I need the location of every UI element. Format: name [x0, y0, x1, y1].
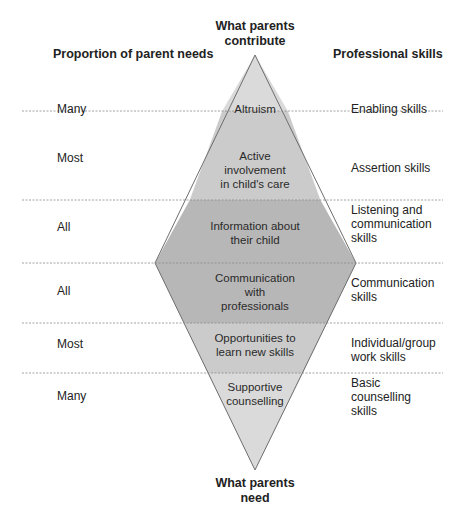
skill-2-line1: Assertion skills: [351, 161, 430, 175]
center-5-line2: learn new skills: [185, 345, 325, 359]
bottom-header: What parents need: [205, 476, 305, 506]
top-header-line2: contribute: [205, 34, 305, 49]
skill-6: Basic counselling skills: [351, 376, 411, 418]
center-2-line2: involvement: [195, 163, 315, 177]
proportion-5: Most: [57, 337, 83, 351]
proportion-4: All: [57, 284, 70, 298]
center-3-line2: their child: [185, 233, 325, 247]
center-label-6: Supportive counselling: [195, 380, 315, 408]
center-6-line2: counselling: [195, 394, 315, 408]
bottom-header-line1: What parents: [205, 476, 305, 491]
skill-1: Enabling skills: [351, 102, 427, 116]
center-1-line1: Altruism: [195, 102, 315, 116]
center-label-1: Altruism: [195, 102, 315, 116]
center-3-line1: Information about: [185, 219, 325, 233]
center-5-line1: Opportunities to: [185, 331, 325, 345]
left-header: Proportion of parent needs: [53, 47, 213, 61]
skill-2: Assertion skills: [351, 161, 430, 175]
center-2-line1: Active: [195, 149, 315, 163]
skill-5: Individual/group work skills: [351, 336, 436, 364]
skill-5-line1: Individual/group: [351, 336, 436, 350]
center-4-line3: professionals: [185, 299, 325, 313]
diamond-diagram: [0, 0, 467, 510]
skill-3-line2: communication: [351, 217, 432, 231]
skill-5-line2: work skills: [351, 350, 436, 364]
proportion-1: Many: [57, 102, 86, 116]
center-label-2: Active involvement in child's care: [195, 149, 315, 191]
center-4-line1: Communication: [185, 271, 325, 285]
top-header: What parents contribute: [205, 19, 305, 49]
proportion-6: Many: [57, 389, 86, 403]
skill-6-line1: Basic: [351, 376, 411, 390]
center-6-line1: Supportive: [195, 380, 315, 394]
skill-1-line1: Enabling skills: [351, 102, 427, 116]
skill-3-line1: Listening and: [351, 203, 432, 217]
proportion-3: All: [57, 220, 70, 234]
skill-4-line2: skills: [351, 290, 434, 304]
right-header: Professional skills: [333, 47, 443, 61]
skill-6-line3: skills: [351, 404, 411, 418]
center-label-4: Communication with professionals: [185, 271, 325, 313]
center-2-line3: in child's care: [195, 177, 315, 191]
skill-4-line1: Communication: [351, 276, 434, 290]
skill-6-line2: counselling: [351, 390, 411, 404]
center-label-3: Information about their child: [185, 219, 325, 247]
center-4-line2: with: [185, 285, 325, 299]
skill-3: Listening and communication skills: [351, 203, 432, 245]
center-label-5: Opportunities to learn new skills: [185, 331, 325, 359]
bottom-header-line2: need: [205, 491, 305, 506]
skill-4: Communication skills: [351, 276, 434, 304]
proportion-2: Most: [57, 151, 83, 165]
skill-3-line3: skills: [351, 231, 432, 245]
top-header-line1: What parents: [205, 19, 305, 34]
